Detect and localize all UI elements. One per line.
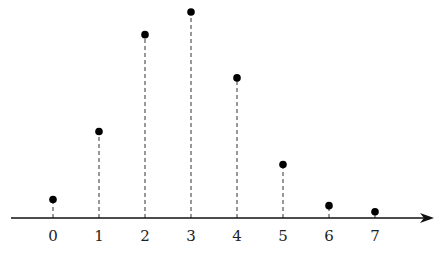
stems — [49, 8, 379, 218]
x-tick-label: 1 — [94, 227, 104, 245]
x-tick-label: 4 — [232, 227, 242, 245]
tick-labels: 01234567 — [48, 227, 380, 245]
x-tick-label: 0 — [48, 227, 58, 245]
stem-chart: 01234567 — [0, 0, 444, 273]
x-tick-label: 3 — [186, 227, 196, 245]
data-point — [325, 202, 333, 210]
data-point — [279, 161, 287, 169]
x-tick-label: 6 — [324, 227, 334, 245]
data-point — [371, 208, 379, 216]
x-tick-label: 5 — [278, 227, 288, 245]
data-point — [187, 8, 195, 16]
x-tick-label: 7 — [370, 227, 380, 245]
x-tick-label: 2 — [140, 227, 150, 245]
data-point — [49, 196, 57, 204]
data-point — [95, 128, 103, 136]
data-point — [233, 74, 241, 82]
data-point — [141, 31, 149, 39]
